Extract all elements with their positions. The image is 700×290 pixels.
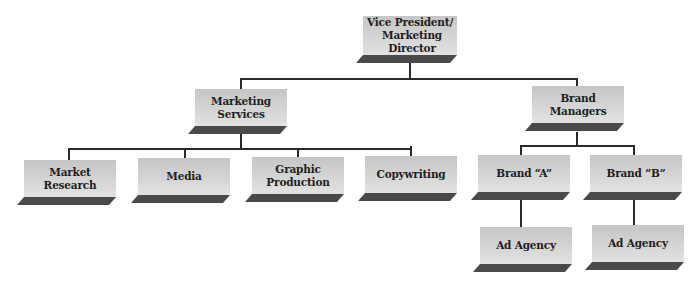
- node-shelf: [17, 197, 116, 205]
- node-label: Copywriting: [377, 168, 446, 181]
- node-shelf: [583, 192, 682, 200]
- node-face: Media: [138, 158, 230, 195]
- node-face: Ad Agency: [480, 227, 572, 264]
- node-label: Graphic Production: [252, 163, 344, 189]
- node-label-line2: Marketing Director: [367, 29, 457, 55]
- node-label: Marketing Services: [195, 95, 287, 121]
- connector-level2-horizontal: [68, 148, 411, 150]
- node-face: Ad Agency: [592, 225, 684, 262]
- node-market-research: Market Research: [24, 160, 116, 205]
- node-ad-agency-a: Ad Agency: [480, 227, 572, 272]
- node-face: Copywriting: [365, 156, 457, 193]
- node-shelf: [471, 192, 570, 200]
- node-shelf: [473, 264, 572, 272]
- connector-to-brand-a: [520, 145, 522, 155]
- node-face: Marketing Services: [195, 89, 287, 126]
- node-brand-b: Brand “B”: [590, 155, 682, 200]
- node-shelf: [525, 123, 624, 131]
- node-label: Brand “A”: [496, 167, 552, 180]
- node-label: Ad Agency: [496, 239, 556, 252]
- connector-brand-b-to-ad-agency: [633, 200, 635, 225]
- node-brand-managers: Brand Managers: [532, 86, 624, 131]
- node-label: Brand “B”: [607, 167, 666, 180]
- connector-brands-horizontal: [520, 145, 634, 147]
- node-face: Brand Managers: [532, 86, 624, 123]
- org-chart: Vice President/ Marketing Director Marke…: [0, 0, 700, 290]
- node-face: Brand “B”: [590, 155, 682, 192]
- connector-marketing-services-down: [240, 134, 242, 149]
- node-media: Media: [138, 158, 230, 203]
- connector-brand-a-to-ad-agency: [520, 200, 522, 227]
- node-ad-agency-b: Ad Agency: [592, 225, 684, 270]
- node-shelf: [358, 193, 457, 201]
- node-shelf: [188, 126, 287, 134]
- node-face: Brand “A”: [478, 155, 570, 192]
- node-marketing-services: Marketing Services: [195, 89, 287, 134]
- node-label: Ad Agency: [608, 237, 668, 250]
- node-label: Brand Managers: [532, 92, 624, 118]
- connector-to-graphic-production: [297, 148, 299, 157]
- connector-brand-managers-down: [576, 132, 578, 146]
- node-copywriting: Copywriting: [365, 156, 457, 201]
- node-face: Market Research: [24, 160, 116, 197]
- node-face: Graphic Production: [252, 157, 344, 194]
- node-brand-a: Brand “A”: [478, 155, 570, 200]
- node-face: Vice President/ Marketing Director: [363, 16, 457, 55]
- node-label: Market Research: [24, 166, 116, 192]
- connector-to-brand-b: [633, 145, 635, 155]
- node-vice-president: Vice President/ Marketing Director: [363, 16, 457, 63]
- connector-vp-down: [409, 63, 411, 79]
- node-shelf: [245, 194, 344, 202]
- node-label: Media: [166, 170, 201, 183]
- node-shelf: [131, 195, 230, 203]
- node-shelf: [585, 262, 684, 270]
- node-label-line1: Vice President/: [367, 16, 453, 29]
- connector-level1-horizontal: [240, 78, 577, 80]
- node-graphic-production: Graphic Production: [252, 157, 344, 202]
- node-shelf: [356, 55, 455, 63]
- connector-to-marketing-services: [240, 78, 242, 89]
- connector-to-media: [184, 148, 186, 158]
- connector-to-market-research: [68, 148, 70, 160]
